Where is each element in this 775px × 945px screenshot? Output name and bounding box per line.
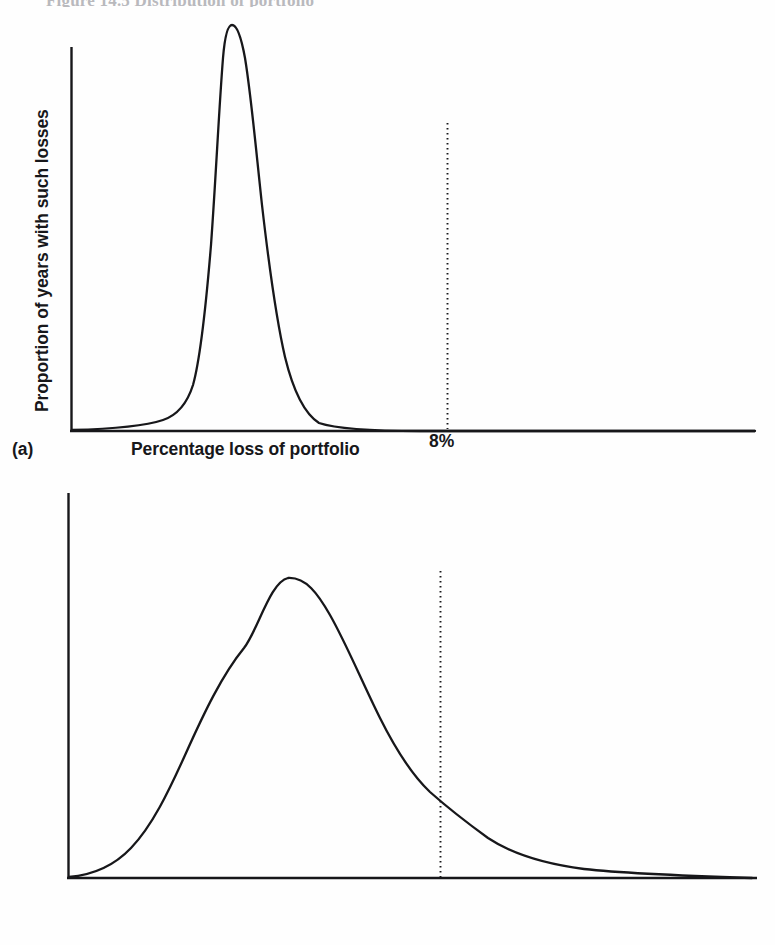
figure-panel-a: Proportion of years with such losses (a)… (0, 0, 775, 470)
scanned-figure-page: Figure 14.5 Distribution of portfolio Pr… (0, 0, 775, 945)
density-curve-a (72, 25, 755, 431)
density-curve-b (69, 578, 752, 878)
loss-distribution-plot-a (0, 0, 775, 470)
x-axis-title-a: Percentage loss of portfolio (131, 439, 360, 460)
panel-tag-a: (a) (12, 439, 33, 460)
figure-panel-b: Proportion of years with such losses (b)… (0, 470, 775, 945)
threshold-label-a: 8% (429, 431, 454, 452)
y-axis-title-a: Proportion of years with such losses (32, 109, 53, 412)
loss-distribution-plot-b (0, 470, 775, 945)
